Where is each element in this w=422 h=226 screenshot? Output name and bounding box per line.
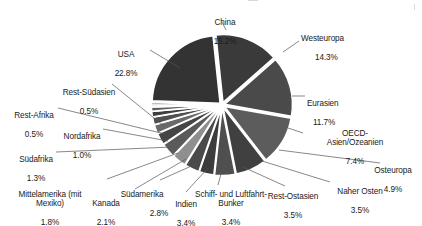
slice-name: Osteuropa: [364, 166, 422, 176]
slice-value: 0.5%: [3, 130, 65, 140]
slice-value: 3.5%: [326, 206, 394, 216]
slice-name: Eurasien: [307, 99, 387, 109]
slice-value: 1.3%: [8, 174, 64, 184]
slice-name: Rest-Südasien: [54, 88, 124, 98]
slice-name: USA: [100, 50, 152, 60]
slice-value: 22.8%: [100, 69, 152, 79]
slice-value: 0.5%: [54, 107, 124, 117]
slice-value: 1.0%: [52, 151, 112, 161]
pie-chart-figure: China 15.2% Westeuropa 14.3% Eurasien 11…: [0, 0, 422, 226]
slice-name: OECD- Asien/Ozeanien: [305, 129, 405, 148]
slice-label-usa: USA 22.8%: [100, 40, 152, 88]
slice-name: Naher Osten: [326, 187, 394, 197]
slice-value: 1.8%: [0, 218, 100, 226]
slice-label-naher-osten: Naher Osten 3.5%: [326, 177, 394, 225]
slice-value: 14.3%: [301, 53, 397, 63]
slice-name: China: [178, 18, 272, 28]
slice-name: Westeuropa: [301, 34, 397, 44]
slice-value: 15.2%: [178, 37, 272, 47]
slice-label-westeuropa: Westeuropa 14.3%: [301, 24, 397, 72]
slice-label-china: China 15.2%: [178, 8, 272, 56]
